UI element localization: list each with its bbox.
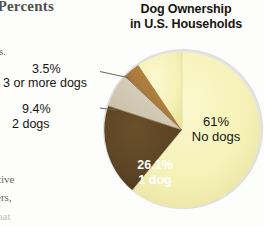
callout-label-three-or-more-dogs: 3 or more dogs: [3, 76, 87, 90]
slice-name-one-dog: 1 dog: [112, 173, 198, 188]
adjacent-page-heading: g Percents: [0, 0, 54, 15]
slice-name-no-dogs: No dogs: [176, 129, 256, 144]
callout-percent-three-or-more-dogs: 3.5%: [32, 62, 61, 76]
slice-percent-one-dog: 26.1%: [112, 158, 198, 173]
slice-label-no-dogs: 61% No dogs: [176, 114, 256, 144]
adjacent-page-text-line-3: ers,: [0, 191, 12, 203]
adjacent-page-text-line-1: es.: [0, 45, 6, 57]
chart-title: Dog Ownership in U.S. Households: [108, 2, 264, 31]
slice-percent-no-dogs: 61%: [176, 114, 256, 129]
callout-percent-two-dogs: 9.4%: [22, 102, 51, 116]
figure-container: g Percents es. tive ers, that Dog Owners…: [0, 0, 264, 226]
chart-title-line-2: in U.S. Households: [108, 17, 264, 32]
chart-title-line-1: Dog Ownership: [108, 2, 264, 17]
adjacent-page-text-line-2: tive: [0, 173, 15, 185]
adjacent-page-text-line-4: that: [0, 210, 11, 222]
slice-label-one-dog: 26.1% 1 dog: [112, 158, 198, 188]
callout-label-two-dogs: 2 dogs: [12, 117, 50, 131]
